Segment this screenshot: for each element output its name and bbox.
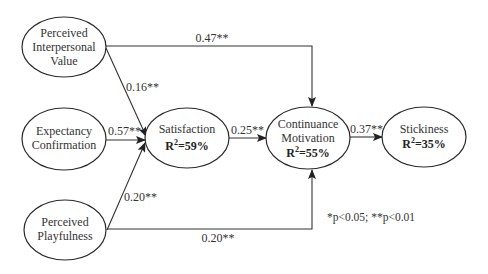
node-stickiness: Stickiness R2=35% xyxy=(382,107,466,167)
svg-text:Value: Value xyxy=(50,54,77,68)
r-squared-stickiness: R2=35% xyxy=(402,136,446,151)
node-continuance-motivation: Continuance Motivation R2=55% xyxy=(266,107,350,169)
edge-label-piv-sat: 0.16** xyxy=(126,80,159,94)
svg-text:Motivation: Motivation xyxy=(281,131,334,145)
edge-piv-cm xyxy=(106,46,312,106)
edge-label-pp-sat: 0.20** xyxy=(124,190,157,204)
svg-text:Playfulness: Playfulness xyxy=(37,229,93,243)
edge-label-piv-cm: 0.47** xyxy=(196,31,229,45)
svg-text:Satisfaction: Satisfaction xyxy=(159,122,216,136)
significance-note: *p<0.05; **p<0.01 xyxy=(327,211,415,224)
svg-text:Perceived: Perceived xyxy=(41,215,88,229)
svg-text:Continuance: Continuance xyxy=(278,117,339,131)
node-perceived-interpersonal-value: Perceived Interpersonal Value xyxy=(22,17,106,77)
node-expectancy-confirmation: Expectancy Confirmation xyxy=(22,108,106,170)
edge-label-pp-cm: 0.20** xyxy=(202,231,235,245)
edge-label-ec-sat: 0.57** xyxy=(108,124,141,138)
svg-text:Perceived: Perceived xyxy=(40,26,87,40)
edge-label-sat-cm: 0.25** xyxy=(231,123,264,137)
r-squared-continuance: R2=55% xyxy=(286,145,330,160)
svg-text:Expectancy: Expectancy xyxy=(36,124,92,138)
svg-text:Confirmation: Confirmation xyxy=(32,138,97,152)
svg-text:Interpersonal: Interpersonal xyxy=(32,40,96,54)
r-squared-satisfaction: R2=59% xyxy=(165,138,209,153)
node-satisfaction: Satisfaction R2=59% xyxy=(145,108,229,168)
edge-pp-sat xyxy=(107,143,145,230)
node-perceived-playfulness: Perceived Playfulness xyxy=(24,200,106,260)
edge-label-cm-stk: 0.37** xyxy=(350,122,383,136)
path-model-diagram: 0.47** 0.16** 0.57** 0.20** 0.25** 0.37*… xyxy=(0,0,488,274)
svg-text:Stickiness: Stickiness xyxy=(400,122,449,136)
